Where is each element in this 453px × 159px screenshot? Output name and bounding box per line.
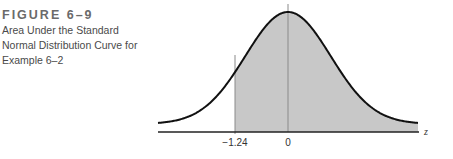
tick-label-neg-1-24: −1.24 (222, 137, 248, 148)
normal-curve-diagram: −1.24 0 z (0, 0, 453, 159)
axis-variable-z: z (423, 126, 428, 137)
tick-label-zero: 0 (285, 137, 291, 148)
